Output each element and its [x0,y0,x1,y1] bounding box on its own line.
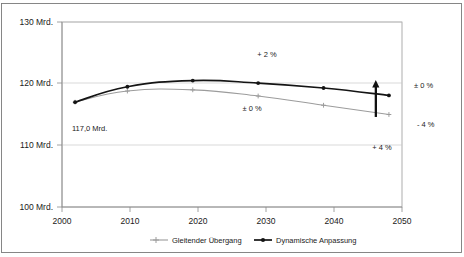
x-tick-label-2040: 2040 [325,216,344,226]
annotation-plus-4-percent: + 4 % [372,143,392,152]
x-tick-label-2010: 2010 [121,216,140,226]
gridlines-horizontal [62,22,402,145]
annotation-pm-0-percent-inner: ± 0 % [242,104,261,113]
data-point-marker [256,81,260,85]
data-point-marker [73,100,77,104]
y-tick-label-120: 120 Mrd. [19,78,53,88]
x-tick-label-2050: 2050 [393,216,412,226]
annotation-plus-2-percent: + 2 % [257,50,277,59]
annotation-start-value: 117,0 Mrd. [72,124,107,133]
data-point-marker [387,93,391,97]
series-group [73,79,392,117]
data-point-marker [125,85,129,89]
plot-area-border [62,22,402,207]
annotation-pm-0-percent-right: ± 0 % [414,81,433,90]
x-axis-ticks [62,207,402,212]
y-tick-label-110: 110 Mrd. [20,140,53,150]
data-point-marker [322,86,326,90]
y-axis-ticks [57,22,62,207]
range-arrow [372,80,379,117]
x-tick-label-2030: 2030 [257,216,276,226]
line-chart: 130 Mrd. 120 Mrd. 110 Mrd. 100 Mrd. 2000… [0,0,464,257]
legend-label-gleitender-uebergang: Gleitender Übergang [172,236,242,245]
data-point-marker [191,79,195,83]
chart-legend: Gleitender Übergang Dynamische Anpassung [150,236,356,245]
legend-label-dynamische-anpassung: Dynamische Anpassung [276,236,356,245]
legend-swatch-marker-dark [261,238,265,242]
y-tick-label-100: 100 Mrd. [19,202,53,212]
range-arrow-head [372,80,379,88]
y-tick-label-130: 130 Mrd. [19,17,53,27]
legend-item-gleitender-uebergang[interactable]: Gleitender Übergang [150,236,242,245]
x-tick-label-2000: 2000 [53,216,72,226]
x-tick-label-2020: 2020 [189,216,208,226]
series-line-gleitender-uebergang [75,89,389,114]
chart-container: 130 Mrd. 120 Mrd. 110 Mrd. 100 Mrd. 2000… [0,0,464,257]
legend-item-dynamische-anpassung[interactable]: Dynamische Anpassung [254,236,356,245]
annotation-minus-4-percent-right: - 4 % [417,120,435,129]
